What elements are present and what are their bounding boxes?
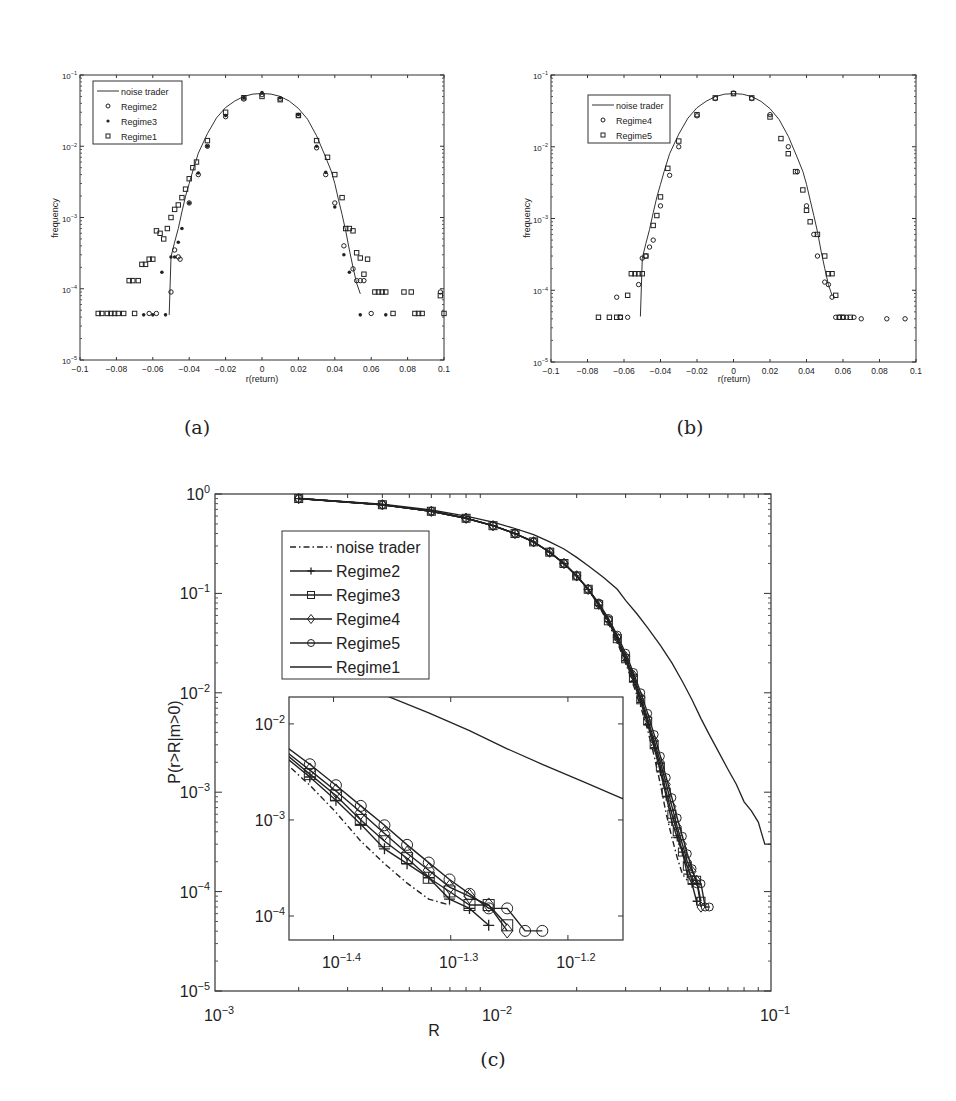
data-point [165,226,169,230]
legend-label: noise trader [616,101,664,111]
data-point [26,618,37,629]
data-point [111,647,122,658]
legend-label: Regime1 [121,132,157,142]
data-point [142,313,146,317]
data-point [206,144,210,148]
data-point [369,311,373,315]
data-point [70,631,81,645]
data-point [655,213,659,217]
y-tick-label: 10−2 [533,142,548,153]
data-point [340,195,344,199]
data-point [149,666,160,677]
data-point [667,173,671,177]
caption-c: (c) [480,1048,505,1070]
data-point [217,704,228,715]
y-tick-label: 10−1 [533,70,548,81]
data-point [169,255,173,259]
legend-label: Regime3 [336,587,400,604]
y-tick-label: 10−2 [180,682,210,702]
legend-label: Regime2 [336,563,400,580]
data-point [180,227,184,231]
x-tick-label: 0.02 [762,366,779,376]
data-point [607,315,611,319]
data-point [823,254,827,258]
x-tick-label: 0 [260,364,265,374]
data-point [815,254,819,258]
data-point [333,205,337,209]
data-point [217,707,228,718]
data-point [315,144,319,148]
data-point [176,203,180,207]
data-point [177,240,181,244]
series-line [169,94,360,315]
data-point [260,91,264,95]
data-point [70,633,81,644]
data-point [342,253,346,257]
data-point [786,152,790,156]
panel-c-cumulative-plot: 10−310−210−110−510−410−310−210−1100noise… [0,483,802,1024]
y-tick-label: 10−3 [180,781,210,801]
legend-label: Regime4 [336,611,400,628]
data-point [808,220,812,224]
data-point [644,254,648,258]
data-point [187,201,191,205]
data-point [277,746,288,757]
legend-label: Regime5 [336,635,400,652]
data-point [625,315,629,319]
data-point [26,618,37,629]
data-point [647,245,651,249]
data-point [147,311,151,315]
y-tick-label: 10−3 [62,213,77,224]
x-tick-label: 0.1 [438,364,450,374]
legend-label: noise trader [121,87,169,97]
y-tick-label: 10−4 [62,284,77,295]
x-tick-label: −0.08 [577,366,599,376]
y-tick-label: 10−5 [180,980,210,1000]
legend-label: Regime3 [121,117,157,127]
x-tick-label: −0.1 [543,366,560,376]
data-point [149,667,160,678]
data-point [801,188,805,192]
data-point [636,282,640,286]
data-point [384,313,388,317]
data-point [354,251,358,255]
data-point [164,313,168,317]
x-tick-label: 0.04 [327,364,344,374]
inset-plot-area [289,697,623,940]
inset-y-tick-label: 10−3 [255,809,285,829]
x-tick-label: −0.04 [650,366,672,376]
y-tick-label: 10−1 [180,582,210,602]
x-tick-label: 10−2 [482,1004,512,1024]
data-point [666,166,670,170]
data-point [149,663,160,677]
data-point [217,699,228,710]
x-tick-label: 0.08 [871,366,888,376]
panel-a-ylabel: frequency [50,198,60,238]
data-point [132,311,136,315]
data-point [596,315,600,319]
data-point [786,145,790,149]
data-point [277,749,288,760]
legend-label: Regime2 [121,102,157,112]
x-tick-label: 0.08 [399,364,416,374]
data-point [111,649,122,660]
data-point [359,313,363,317]
y-tick-label: 10−4 [180,880,210,900]
data-point [342,244,346,248]
data-point [409,290,413,294]
x-tick-label: 10−1 [760,1004,790,1024]
data-point [151,313,155,317]
caption-b: (b) [677,416,704,438]
data-point [358,256,362,260]
data-point [197,171,201,175]
x-tick-label: 0.02 [290,364,307,374]
data-point [173,255,177,259]
data-point [111,646,122,660]
legend-label: Regime5 [616,131,652,141]
data-point [651,223,655,227]
panel-b-xlabel: r(return) [718,374,751,384]
data-point [172,207,176,211]
data-point [779,136,783,140]
data-point [391,311,395,315]
data-point [365,257,369,261]
